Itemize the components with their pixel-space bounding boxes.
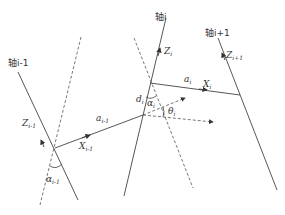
axis-i [124,18,166,196]
x-arrow-i-minus-1 [82,135,90,138]
z-label-i-minus-1: Zi-1 [21,118,36,129]
z-label-i-plus-1: Zi+1 [225,50,243,61]
d-label-i: di [136,94,144,105]
axis-label-i: 轴i [155,11,167,22]
theta-label-i: θi [168,106,175,117]
axis-i-plus-1 [218,38,277,190]
dh-diagram: 轴i-1 轴i 轴i+1 Zi-1 Zi Zi+1 ai-1 Xi-1 ai X… [0,0,285,215]
axis-label-i-minus-1: 轴i-1 [8,57,28,68]
axis-label-i-plus-1: 轴i+1 [205,27,230,38]
a-label-i-minus-1: ai-1 [96,113,109,124]
alpha-label-i: αi [147,98,155,109]
dashed-x-extension [143,115,213,122]
alpha-label-i-minus-1: αi-1 [46,174,60,185]
link-x-i [150,83,240,95]
alpha-arc-i-minus-1 [50,164,62,168]
dashed-z-projection-i [134,38,193,188]
z-arrow-i-minus-1 [41,140,44,147]
z-label-i: Zi [163,46,172,57]
theta-arc-i [163,107,164,117]
x-label-i-minus-1: Xi-1 [78,141,93,152]
x-label-i: Xi [202,79,211,90]
a-label-i: ai [184,74,191,85]
